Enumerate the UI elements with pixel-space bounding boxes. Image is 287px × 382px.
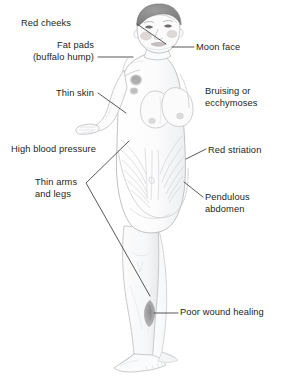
hand bbox=[76, 124, 99, 134]
label-red-striation: Red striation bbox=[208, 145, 287, 157]
cushing-syndrome-figure: Red cheeks Fat pads (buffalo hump) Moon … bbox=[0, 0, 287, 382]
torso-silhouette bbox=[116, 52, 185, 233]
label-pendulous-abdomen: Pendulous abdomen bbox=[205, 192, 287, 215]
label-red-cheeks: Red cheeks bbox=[0, 18, 71, 30]
label-thin-skin: Thin skin bbox=[0, 88, 94, 100]
near-leg bbox=[118, 226, 159, 368]
label-fat-pads-buffalo-hump: Fat pads (buffalo hump) bbox=[0, 40, 94, 63]
label-high-blood-pressure: High blood pressure bbox=[11, 144, 131, 156]
label-moon-face: Moon face bbox=[196, 42, 286, 54]
legs-group bbox=[114, 226, 178, 372]
right-cheek-plethora bbox=[167, 30, 178, 38]
label-thin-arms-and-legs: Thin arms and legs bbox=[35, 177, 105, 200]
left-areola bbox=[148, 118, 155, 124]
leader-red-striation bbox=[186, 149, 206, 159]
right-ear bbox=[179, 29, 183, 37]
right-areola bbox=[176, 113, 184, 119]
left-ear bbox=[134, 30, 138, 38]
head-group bbox=[134, 4, 183, 60]
label-bruising-or-ecchymoses: Bruising or ecchymoses bbox=[205, 86, 287, 109]
label-poor-wound-healing: Poor wound healing bbox=[180, 307, 287, 319]
right-breast bbox=[162, 88, 193, 127]
far-foot bbox=[158, 352, 178, 362]
